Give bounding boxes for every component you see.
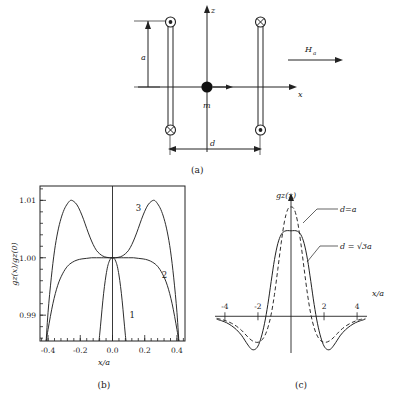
panel-c-annotation-d-eq-a: d=a [340, 205, 357, 214]
applied-field-arrowhead [335, 57, 343, 63]
panel-c-xtick-label: 4 [355, 302, 360, 311]
panel-b-xlabel: x/a [98, 358, 110, 367]
applied-field-label-sub: a [313, 50, 316, 56]
panel-b-xtick-label: 0.0 [107, 346, 119, 355]
panel-c-ylabel: gz(x) [276, 191, 296, 200]
dimension-a-arrowhead [145, 21, 151, 29]
panel-c-svg: -4-224 x/a gz(x) d=a d = √3a (c) [197, 176, 397, 394]
panel-b-svg: -0.4-0.20.00.20.40.991.001.01 123 x/a gz… [0, 176, 200, 394]
coil-right-bar [258, 21, 263, 131]
dimension-a-label: a [141, 53, 146, 62]
panel-c-tick-labels: -4-224 [221, 302, 359, 311]
panel-c-xtick-label: 2 [322, 302, 327, 311]
panel-b-xtick-label: -0.2 [73, 346, 88, 355]
panel-c-xlabel: x/a [372, 289, 384, 298]
dipole-marker [201, 81, 212, 92]
panel-b-xtick-label: -0.4 [41, 346, 56, 355]
z-axis-arrowhead [204, 5, 210, 13]
panel-b-ytick-label: 0.99 [19, 311, 36, 320]
panel-b-curve-label-3: 3 [136, 203, 141, 213]
panel-b-caption: (b) [98, 380, 111, 390]
coil-symbol-top-right [256, 17, 266, 27]
panel-a-caption: (a) [191, 165, 203, 175]
dipole-direction-arrowhead [226, 85, 233, 90]
figure-root: z x m a d H a (a) -0.4-0.20.00.20.40.991… [0, 0, 397, 394]
panel-c-xtick-label: -4 [221, 302, 229, 311]
panel-c-leader-d-eq-a [303, 209, 338, 223]
panel-b-curve-label-2: 2 [162, 270, 167, 280]
applied-field-label-main: H [304, 45, 313, 54]
panel-c-leader-d-eq-sqrt3a [307, 246, 338, 262]
dimension-d-label: d [210, 139, 215, 148]
panel-a: z x m a d H a (a) [0, 0, 397, 178]
panel-c-annotation-d-eq-sqrt3a: d = √3a [340, 242, 372, 251]
coil-left-bar [168, 21, 173, 131]
coil-symbol-top-left [166, 17, 176, 27]
x-axis-arrowhead [289, 84, 297, 90]
panel-a-svg: z x m a d H a (a) [0, 0, 397, 178]
panel-c-xtick-label: -2 [254, 302, 262, 311]
panel-b-xtick-label: 0.2 [139, 346, 151, 355]
panel-b-tick-labels: -0.4-0.20.00.20.40.991.001.01 [19, 196, 183, 355]
dimension-d-right-arrowhead [254, 146, 262, 152]
panel-b: -0.4-0.20.00.20.40.991.001.01 123 x/a gz… [0, 176, 200, 394]
panel-b-curve-label-1: 1 [129, 310, 134, 320]
panel-b-ylabel-text: gz(x)/gz(0) [10, 242, 19, 285]
dipole-label: m [203, 101, 211, 110]
coil-symbol-bottom-left [166, 125, 176, 135]
coil-symbol-bottom-right [256, 125, 266, 135]
panel-b-ytick-label: 1.00 [19, 254, 36, 263]
panel-b-curve-labels: 123 [129, 203, 167, 320]
panel-b-ylabel: gz(x)/gz(0) [10, 242, 19, 285]
x-axis-label: x [298, 90, 303, 99]
z-axis-label: z [210, 6, 216, 15]
dimension-d-left-arrowhead [168, 146, 176, 152]
panel-b-xtick-label: 0.4 [171, 346, 183, 355]
panel-b-ytick-label: 1.01 [19, 196, 36, 205]
applied-field-label: H a [304, 45, 316, 56]
panel-c-caption: (c) [295, 380, 307, 390]
panel-c: -4-224 x/a gz(x) d=a d = √3a (c) [197, 176, 397, 394]
panel-c-leader-lines [303, 209, 338, 262]
